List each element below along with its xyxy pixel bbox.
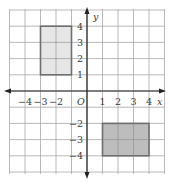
x-axis-right-arrow-icon: [159, 89, 166, 94]
coordinate-plane: −4−3−212344321−2−3−4 y x O: [0, 0, 170, 182]
y-tick-label: 2: [77, 53, 83, 64]
y-tick-label: −3: [69, 134, 83, 145]
y-axis-down-arrow-icon: [85, 172, 90, 179]
x-tick-label: 2: [115, 96, 121, 107]
y-tick-label: 1: [77, 69, 83, 80]
y-axis-up-arrow-icon: [85, 7, 90, 14]
y-tick-label: 4: [77, 21, 83, 32]
y-tick-label: 3: [77, 37, 83, 48]
y-axis-label: y: [92, 11, 99, 22]
x-tick-label: 1: [99, 96, 105, 107]
x-axis-label: x: [157, 96, 163, 107]
x-tick-label: −3: [33, 96, 47, 107]
x-tick-label: −2: [49, 96, 63, 107]
x-tick-label: −4: [18, 96, 32, 107]
y-tick-label: −4: [69, 150, 83, 161]
x-tick-label: 3: [130, 96, 136, 107]
origin-label: O: [77, 96, 85, 107]
y-tick-label: −2: [69, 118, 83, 129]
x-axis-left-arrow-icon: [4, 89, 11, 94]
x-tick-label: 4: [146, 96, 152, 107]
